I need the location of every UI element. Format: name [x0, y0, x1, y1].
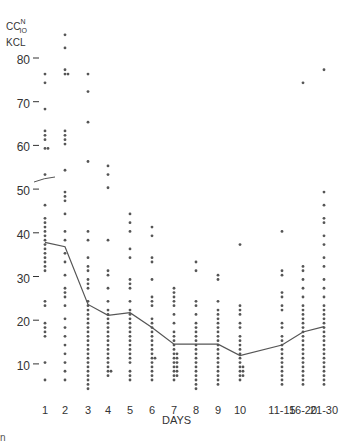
data-point — [281, 383, 284, 386]
data-point — [129, 309, 132, 312]
data-point — [64, 344, 67, 347]
data-point — [87, 278, 90, 281]
data-point — [107, 269, 110, 272]
data-point — [110, 370, 113, 373]
data-point — [217, 313, 220, 316]
data-point — [173, 352, 176, 355]
data-point — [281, 352, 284, 355]
data-point — [107, 239, 110, 242]
data-point — [64, 191, 67, 194]
data-point — [217, 383, 220, 386]
data-point — [44, 173, 47, 176]
data-point — [87, 357, 90, 360]
data-point — [107, 370, 110, 373]
data-point — [176, 370, 179, 373]
data-point — [107, 361, 110, 364]
data-point — [151, 300, 154, 303]
data-point — [67, 73, 70, 76]
data-point — [64, 199, 67, 202]
data-point — [281, 361, 284, 364]
data-point — [195, 331, 198, 334]
data-point — [217, 361, 220, 364]
data-point — [87, 269, 90, 272]
data-point — [302, 335, 305, 338]
data-point — [64, 130, 67, 133]
data-point — [195, 357, 198, 360]
data-point — [195, 335, 198, 338]
data-point — [173, 348, 176, 351]
data-point — [129, 322, 132, 325]
data-point — [217, 370, 220, 373]
data-point — [129, 221, 132, 224]
data-point — [129, 339, 132, 342]
data-point — [217, 331, 220, 334]
data-point — [87, 256, 90, 259]
data-point — [173, 366, 176, 369]
data-point — [323, 304, 326, 307]
data-point — [107, 309, 110, 312]
data-point — [239, 348, 242, 351]
data-point — [44, 147, 47, 150]
data-point — [217, 348, 220, 351]
data-point — [242, 366, 245, 369]
data-point — [107, 335, 110, 338]
data-point — [323, 317, 326, 320]
data-point — [323, 383, 326, 386]
data-point — [64, 261, 67, 264]
data-point — [154, 357, 157, 360]
data-point — [87, 309, 90, 312]
data-point — [64, 33, 67, 36]
data-point — [323, 374, 326, 377]
data-point — [176, 352, 179, 355]
data-point — [87, 265, 90, 268]
data-point — [323, 366, 326, 369]
data-point — [302, 370, 305, 373]
data-point — [281, 322, 284, 325]
data-point — [217, 335, 220, 338]
data-point — [87, 322, 90, 325]
data-point — [302, 366, 305, 369]
data-point — [281, 357, 284, 360]
data-point — [87, 121, 90, 124]
data-point — [323, 370, 326, 373]
data-point — [44, 322, 47, 325]
data-point — [87, 73, 90, 76]
data-point — [64, 68, 67, 71]
data-point — [217, 309, 220, 312]
data-point — [107, 164, 110, 167]
data-point — [323, 191, 326, 194]
data-point — [217, 317, 220, 320]
data-point — [64, 335, 67, 338]
data-point — [107, 326, 110, 329]
data-point — [176, 366, 179, 369]
data-point — [195, 383, 198, 386]
data-point — [129, 348, 132, 351]
data-point — [44, 134, 47, 137]
data-point — [281, 269, 284, 272]
data-point — [323, 344, 326, 347]
data-point — [151, 322, 154, 325]
data-point — [281, 379, 284, 382]
data-point — [44, 108, 47, 111]
data-point — [151, 374, 154, 377]
data-point — [44, 138, 47, 141]
data-point — [323, 348, 326, 351]
data-point — [44, 252, 47, 255]
data-point — [64, 169, 67, 172]
data-point — [302, 326, 305, 329]
data-point — [64, 296, 67, 299]
data-point — [64, 370, 67, 373]
data-point — [323, 313, 326, 316]
data-point — [151, 348, 154, 351]
data-point — [173, 296, 176, 299]
data-point — [323, 331, 326, 334]
data-point — [195, 304, 198, 307]
data-point — [64, 138, 67, 141]
data-point — [107, 357, 110, 360]
data-point — [44, 265, 47, 268]
data-point — [107, 186, 110, 189]
data-point — [87, 287, 90, 290]
data-point — [129, 374, 132, 377]
data-point — [64, 287, 67, 290]
data-point — [87, 317, 90, 320]
